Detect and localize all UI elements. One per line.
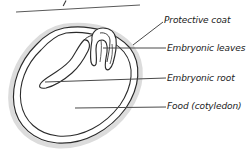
cropped-tick-mark bbox=[63, 1, 66, 7]
label-food-cotyledon: Food (cotyledon) bbox=[167, 101, 241, 111]
seed-diagram-page: Protective coat Embryonic leaves Embryon… bbox=[0, 0, 247, 155]
cropped-leader-line bbox=[16, 5, 140, 12]
leader-protective-coat bbox=[133, 22, 163, 45]
label-embryonic-root: Embryonic root bbox=[167, 73, 235, 83]
cropped-leader-group bbox=[16, 1, 140, 13]
label-protective-coat: Protective coat bbox=[164, 15, 230, 25]
label-embryonic-leaves: Embryonic leaves bbox=[167, 43, 245, 53]
